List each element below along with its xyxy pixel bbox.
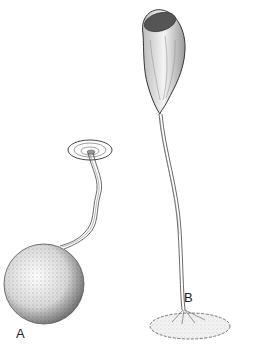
label-b: B — [184, 290, 193, 305]
specimen-a-disc — [68, 140, 112, 160]
illustration — [0, 0, 266, 352]
specimen-a-stalk — [60, 153, 102, 249]
specimen-a-sphere — [4, 244, 84, 324]
label-a: A — [16, 326, 25, 341]
specimen-b-capsule — [142, 9, 185, 114]
specimen-b-base — [150, 310, 230, 339]
specimen-a — [4, 140, 112, 324]
specimen-b-stalk — [159, 114, 185, 310]
